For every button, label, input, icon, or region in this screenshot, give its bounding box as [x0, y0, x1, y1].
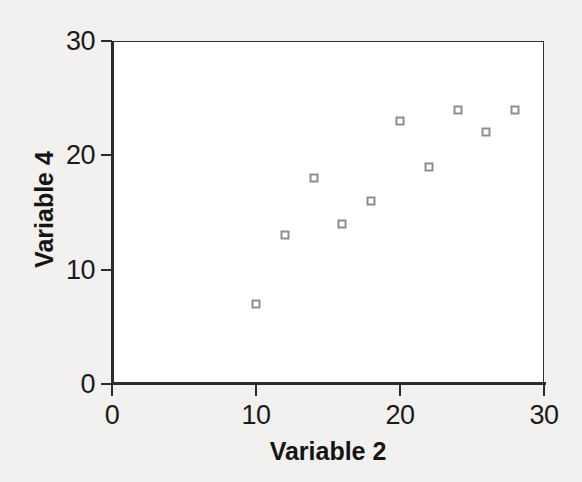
x-tick-mark	[111, 385, 113, 396]
y-tick-mark	[101, 154, 112, 156]
data-point-marker	[252, 299, 261, 308]
data-point-marker	[482, 128, 491, 137]
x-tick-mark	[543, 385, 545, 396]
y-axis-line	[111, 41, 114, 385]
y-tick-label: 20	[66, 140, 95, 171]
x-tick-label: 10	[241, 400, 270, 431]
y-tick-mark	[101, 269, 112, 271]
data-point-marker	[367, 197, 376, 206]
scatter-plot-figure: 0102030 0102030 Variable 2 Variable 4	[0, 0, 582, 482]
y-tick-label: 10	[66, 254, 95, 285]
data-point-marker	[511, 105, 520, 114]
y-axis-title: Variable 4	[30, 100, 59, 320]
x-tick-label: 0	[105, 400, 120, 431]
x-axis-title: Variable 2	[112, 437, 544, 466]
y-tick-mark	[101, 40, 112, 42]
x-tick-mark	[255, 385, 257, 396]
x-axis-line	[112, 382, 546, 385]
data-point-marker	[453, 105, 462, 114]
data-point-marker	[424, 162, 433, 171]
data-point-marker	[338, 219, 347, 228]
y-tick-mark	[101, 383, 112, 385]
data-point-marker	[280, 231, 289, 240]
data-point-marker	[396, 117, 405, 126]
data-point-marker	[309, 174, 318, 183]
x-tick-label: 30	[529, 400, 558, 431]
x-tick-label: 20	[385, 400, 414, 431]
y-tick-label: 30	[66, 26, 95, 57]
plot-area	[112, 41, 544, 384]
x-tick-mark	[399, 385, 401, 396]
y-tick-label: 0	[80, 369, 95, 400]
